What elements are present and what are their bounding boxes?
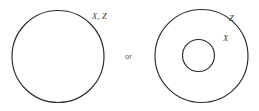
connector-or-label: or [125,52,132,61]
right-inner-circle-label-x: X [222,33,229,43]
right-inner-circle-x [183,40,215,72]
right-outer-circle-label-z: Z [229,13,234,23]
venn-diagram-figure: X, Z or Z X [0,0,259,111]
left-diagram-group: X, Z [12,11,107,103]
diagram-canvas: X, Z or Z X [0,0,259,111]
left-circle-xz [12,11,104,103]
left-circle-label-xz: X, Z [91,11,107,21]
right-diagram-group: Z X [155,10,248,103]
